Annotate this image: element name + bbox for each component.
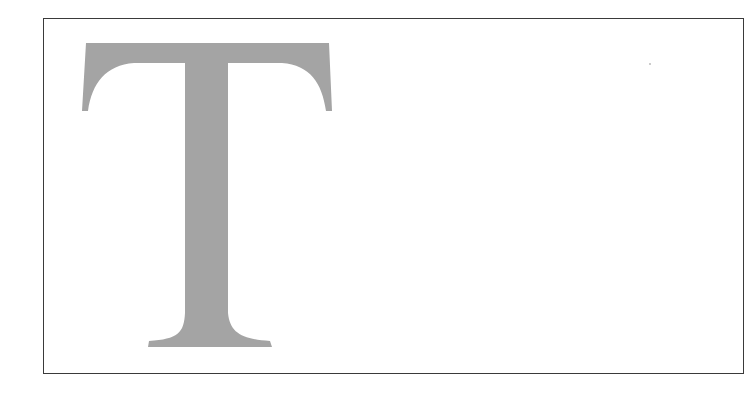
letter-frame bbox=[43, 18, 744, 374]
speck bbox=[649, 63, 651, 65]
letter-t-glyph bbox=[82, 43, 337, 347]
